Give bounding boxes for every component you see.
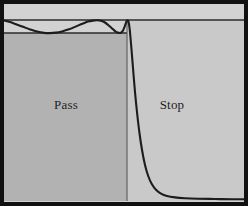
filter-response-figure: Pass Stop: [0, 0, 248, 206]
pass-region: [4, 33, 127, 201]
stop-region: [127, 20, 244, 201]
pass-region-label: Pass: [54, 98, 78, 111]
filter-response-plot: [0, 0, 248, 206]
stop-region-label: Stop: [160, 98, 185, 111]
